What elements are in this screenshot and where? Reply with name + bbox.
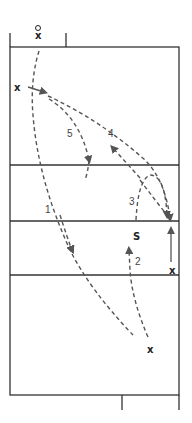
path-3b [140,180,167,215]
court-diagram: x x S x x 1 2 3 4 5 [0,0,192,423]
path-coach [32,51,133,335]
players: x x S x x [14,26,176,356]
player-x3: x [147,344,154,355]
drill-paths [28,51,170,337]
svg-text:1: 1 [45,204,51,215]
path-labels: 1 2 3 4 5 [45,128,141,267]
path-5-tail [85,160,89,180]
path-1-arrow [60,215,72,250]
player-x2: x [169,265,176,276]
path-x1-arrow [28,87,44,92]
coach-x: x [35,30,42,41]
svg-text:5: 5 [67,128,73,139]
svg-text:3: 3 [129,196,135,207]
svg-text:4: 4 [108,128,114,139]
path-1 [39,140,72,250]
player-x1: x [14,82,21,93]
path-4 [48,96,170,218]
path-4-back [113,148,140,178]
svg-text:2: 2 [135,256,141,267]
setter: S [133,231,140,242]
